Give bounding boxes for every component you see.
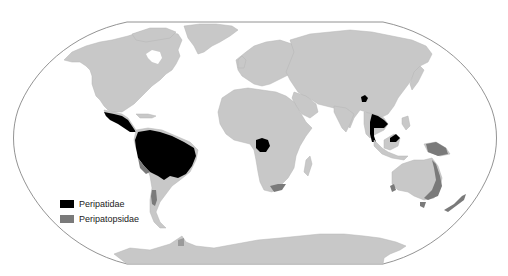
- world-map: [0, 0, 508, 276]
- legend-item-peripatopsidae: Peripatopsidae: [60, 211, 139, 226]
- new-guinea-peripatopsidae: [426, 142, 448, 156]
- peripatidae-swatch: [60, 200, 74, 208]
- amazon-peripatidae: [135, 130, 196, 180]
- legend: Peripatidae Peripatopsidae: [60, 196, 139, 226]
- legend-item-peripatidae: Peripatidae: [60, 196, 139, 211]
- greenland: [184, 24, 238, 54]
- north-america: [64, 30, 182, 112]
- philippines: [402, 116, 410, 130]
- legend-label: Peripatidae: [79, 199, 125, 209]
- tasmania-peripatopsidae: [420, 202, 426, 208]
- new-zealand-peripatopsidae: [444, 194, 466, 212]
- madagascar: [304, 156, 312, 176]
- legend-label: Peripatopsidae: [79, 214, 139, 224]
- antarctica: [114, 234, 406, 264]
- peripatopsidae-swatch: [60, 215, 74, 223]
- caribbean: [136, 114, 156, 118]
